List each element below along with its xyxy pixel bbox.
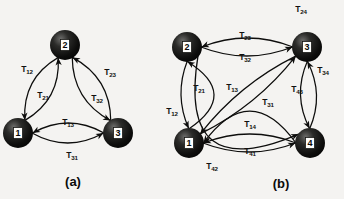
edge-label-subscript: 24 [300,8,306,15]
edge-label-subscript: 13 [231,86,237,93]
edge-label-panel-b-T41: T41 [244,147,255,158]
edge-label-panel-b-T42: T42 [206,162,217,173]
edge-label-subscript: 12 [171,110,177,117]
edge-label-panel-b-T12: T12 [166,107,177,118]
edge-label-subscript: 42 [211,165,217,172]
node-panel-b-2[interactable]: 2 [172,32,202,62]
edge-label-subscript: 41 [249,150,255,157]
node-panel-b-4[interactable]: 4 [295,128,325,158]
edge-label-subscript: 32 [244,56,250,63]
arrowhead-panel-b-T12 [187,62,195,69]
edge-label-subscript: 34 [322,69,328,76]
edge-label-subscript: 32 [96,97,102,104]
edge-label-subscript: 21 [42,94,48,101]
edge-label-subscript: 14 [249,123,255,130]
node-label-text: 3 [115,128,120,138]
edge-label-subscript: 31 [267,101,273,108]
edge-label-subscript: 43 [296,88,302,95]
edge-panel-b-T12 [187,62,214,130]
edge-label-panel-a-T23: T23 [104,68,115,79]
edge-label-panel-b-T43: T43 [291,85,302,96]
node-panel-a-2[interactable]: 2 [50,30,80,60]
panel-caption-panel-a: (a) [65,174,81,189]
arrowhead-panel-a-T32 [72,57,80,63]
edge-label-panel-b-T23: T23 [239,31,250,42]
node-panel-b-1[interactable]: 1 [174,128,204,158]
edge-panel-b-T21 [181,61,189,129]
edge-label-subscript: 12 [26,68,32,75]
node-label-text: 2 [62,40,67,50]
node-label-text: 1 [186,138,191,148]
node-panel-a-1[interactable]: 1 [3,118,33,148]
edge-label-subscript: 21 [198,87,204,94]
node-label-text: 2 [184,42,189,52]
edge-panel-b-T41 [204,134,297,143]
edge-label-subscript: 13 [67,121,73,128]
node-label-text: 3 [304,42,309,52]
edge-label-panel-b-T34: T34 [317,66,328,77]
arrowhead-panel-a-T23 [102,114,110,120]
edge-label-panel-b-T32: T32 [239,53,250,64]
edge-label-panel-b-T31: T31 [262,98,273,109]
edge-label-panel-a-T32: T32 [91,94,102,105]
edge-label-panel-b-T13: T13 [226,83,237,94]
edge-label-panel-b-T24: T24 [295,5,306,16]
edge-label-subscript: 23 [109,71,115,78]
transition-graph-figure: 1231234 T12T21T23T32T13T31(a)T12T21T23T3… [0,0,344,199]
edge-label-panel-b-T14: T14 [244,120,255,131]
node-panel-b-3[interactable]: 3 [292,32,322,62]
node-label-text: 1 [15,128,20,138]
graph-canvas: 1231234 [0,0,344,199]
edge-label-panel-a-T13: T13 [62,118,73,129]
edge-panel-a-T13 [32,133,104,143]
edge-label-subscript: 31 [71,154,77,161]
panel-caption-panel-b: (b) [273,176,290,191]
edge-label-subscript: 23 [244,34,250,41]
node-label-text: 4 [307,138,312,148]
edge-label-panel-a-T12: T12 [21,65,32,76]
edge-label-panel-b-T21: T21 [193,84,204,95]
edge-label-panel-a-T31: T31 [66,151,77,162]
edge-panel-b-T43 [307,61,316,129]
node-panel-a-3[interactable]: 3 [103,118,133,148]
edge-label-panel-a-T21: T21 [37,91,48,102]
